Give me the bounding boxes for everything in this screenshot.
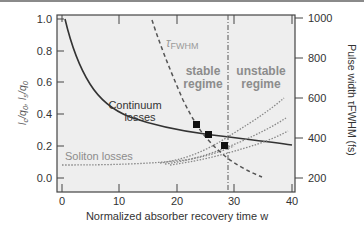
ytick-right: 800 <box>308 52 326 64</box>
continuum-losses-label: Continuum <box>108 99 161 111</box>
continuum-losses-label: losses <box>124 111 156 123</box>
right-axis-tick-labels: 1000 800 600 400 200 <box>308 12 332 184</box>
right-axis-ticks <box>295 18 303 178</box>
soliton-losses-label: Soliton losses <box>65 150 133 162</box>
unstable-regime-label: regime <box>241 77 281 91</box>
ytick-left: 0.6 <box>37 76 52 88</box>
ytick-right: 200 <box>308 172 326 184</box>
ytick-left: 1.0 <box>37 13 52 25</box>
bottom-axis-tick-labels: 0 10 20 30 40 <box>59 195 298 207</box>
xtick: 30 <box>228 195 240 207</box>
ytick-left: 0.4 <box>37 108 52 120</box>
xtick: 20 <box>171 195 183 207</box>
ytick-left: 0.0 <box>37 172 52 184</box>
ytick-right: 600 <box>308 92 326 104</box>
right-axis-label: Pulse width τFWHM (fs) <box>346 44 358 156</box>
marker-square <box>193 121 200 128</box>
ytick-right: 1000 <box>308 12 332 24</box>
marker-square <box>221 142 228 149</box>
svg-text:Pulse width τFWHM (fs): Pulse width τFWHM (fs) <box>346 44 358 156</box>
ytick-left: 0.8 <box>37 45 52 57</box>
top-border <box>0 0 364 2</box>
chart: 1.0 0.8 0.6 0.4 0.2 0.0 lc/q0, ls/q0 0 1 <box>0 0 364 226</box>
ytick-right: 400 <box>308 132 326 144</box>
unstable-regime-label: unstable <box>236 64 286 78</box>
left-axis-label: lc/q0, ls/q0 <box>16 80 30 125</box>
marker-square <box>205 131 212 138</box>
svg-text:lc/q0, ls/q0: lc/q0, ls/q0 <box>16 80 30 125</box>
x-axis-label: Normalized absorber recovery time w <box>86 210 268 222</box>
xtick: 40 <box>286 195 298 207</box>
stable-regime-label: stable <box>186 64 221 78</box>
xtick: 10 <box>113 195 125 207</box>
xtick: 0 <box>59 195 65 207</box>
stable-regime-label: regime <box>183 77 223 91</box>
left-axis-tick-labels: 1.0 0.8 0.6 0.4 0.2 0.0 <box>37 13 52 184</box>
ytick-left: 0.2 <box>37 140 52 152</box>
